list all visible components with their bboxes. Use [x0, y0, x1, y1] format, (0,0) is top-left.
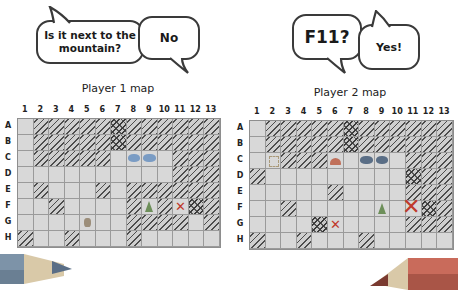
- grid-cell-G1[interactable]: [18, 215, 34, 231]
- grid-cell-B2[interactable]: [266, 137, 282, 153]
- grid-cell-H12[interactable]: [189, 231, 205, 247]
- grid-cell-C2[interactable]: [266, 153, 282, 169]
- grid-cell-E4[interactable]: [297, 185, 313, 201]
- grid-cell-A8[interactable]: [359, 121, 375, 137]
- grid-cell-C2[interactable]: [34, 151, 50, 167]
- grid-cell-H10[interactable]: [390, 233, 406, 249]
- grid-cell-C5[interactable]: [80, 151, 96, 167]
- grid-cell-C4[interactable]: [65, 151, 81, 167]
- grid-cell-D3[interactable]: [281, 169, 297, 185]
- grid-cell-B4[interactable]: [297, 137, 313, 153]
- grid-cell-F3[interactable]: [49, 199, 65, 215]
- grid-cell-G2[interactable]: [34, 215, 50, 231]
- grid-cell-E2[interactable]: [266, 185, 282, 201]
- grid-cell-A11[interactable]: [406, 121, 422, 137]
- grid-cell-G10[interactable]: [158, 215, 174, 231]
- grid-cell-A3[interactable]: [281, 121, 297, 137]
- grid-cell-F12[interactable]: [422, 201, 438, 217]
- grid-cell-A5[interactable]: [312, 121, 328, 137]
- grid-cell-H5[interactable]: [80, 231, 96, 247]
- grid-cell-F7[interactable]: [111, 199, 127, 215]
- grid-cell-F11[interactable]: ✕: [406, 201, 422, 217]
- grid-cell-H6[interactable]: [96, 231, 112, 247]
- grid-cell-C12[interactable]: [189, 151, 205, 167]
- grid-cell-B4[interactable]: [65, 135, 81, 151]
- grid-cell-A12[interactable]: [189, 119, 205, 135]
- grid-cell-D8[interactable]: [359, 169, 375, 185]
- grid-cell-H11[interactable]: [406, 233, 422, 249]
- grid-cell-C9[interactable]: [142, 151, 158, 167]
- grid-cell-C10[interactable]: [390, 153, 406, 169]
- grid-cell-G11[interactable]: [406, 217, 422, 233]
- grid-cell-D2[interactable]: [34, 167, 50, 183]
- grid-cell-B7[interactable]: [111, 135, 127, 151]
- grid-cell-G12[interactable]: [189, 215, 205, 231]
- grid-cell-B2[interactable]: [34, 135, 50, 151]
- grid-cell-B8[interactable]: [127, 135, 143, 151]
- grid-cell-E8[interactable]: [359, 185, 375, 201]
- grid-cell-C8[interactable]: [359, 153, 375, 169]
- grid-cell-D10[interactable]: [158, 167, 174, 183]
- grid-cell-D6[interactable]: [96, 167, 112, 183]
- grid-cell-D4[interactable]: [65, 167, 81, 183]
- grid-cell-A11[interactable]: [173, 119, 189, 135]
- grid-cell-F6[interactable]: [96, 199, 112, 215]
- grid-cell-G7[interactable]: [111, 215, 127, 231]
- grid-cell-H4[interactable]: [65, 231, 81, 247]
- grid-cell-B13[interactable]: [437, 137, 453, 153]
- grid-cell-G4[interactable]: [65, 215, 81, 231]
- grid-cell-G9[interactable]: [375, 217, 391, 233]
- grid-cell-A6[interactable]: [328, 121, 344, 137]
- grid-cell-A9[interactable]: [375, 121, 391, 137]
- grid-cell-G10[interactable]: [390, 217, 406, 233]
- grid-cell-G1[interactable]: [250, 217, 266, 233]
- grid-cell-H4[interactable]: [297, 233, 313, 249]
- grid-cell-H13[interactable]: [204, 231, 220, 247]
- grid-cell-H5[interactable]: [312, 233, 328, 249]
- grid-cell-E1[interactable]: [18, 183, 34, 199]
- grid-cell-F3[interactable]: [281, 201, 297, 217]
- grid-cell-F5[interactable]: [80, 199, 96, 215]
- grid-cell-F9[interactable]: [142, 199, 158, 215]
- grid-cell-E2[interactable]: [34, 183, 50, 199]
- grid-cell-H1[interactable]: [250, 233, 266, 249]
- grid-cell-C3[interactable]: [281, 153, 297, 169]
- grid-cell-H8[interactable]: [127, 231, 143, 247]
- grid-cell-C7[interactable]: [344, 153, 360, 169]
- grid-cell-G9[interactable]: [142, 215, 158, 231]
- grid-cell-F11[interactable]: ✕: [173, 199, 189, 215]
- grid-cell-B1[interactable]: [18, 135, 34, 151]
- grid-cell-C7[interactable]: [111, 151, 127, 167]
- grid-cell-H9[interactable]: [375, 233, 391, 249]
- grid-cell-A13[interactable]: [437, 121, 453, 137]
- grid-cell-F1[interactable]: [250, 201, 266, 217]
- grid-cell-A3[interactable]: [49, 119, 65, 135]
- grid-cell-G11[interactable]: [173, 215, 189, 231]
- grid-cell-E5[interactable]: [80, 183, 96, 199]
- grid-cell-C12[interactable]: [422, 153, 438, 169]
- grid-cell-A2[interactable]: [266, 121, 282, 137]
- grid-cell-A12[interactable]: [422, 121, 438, 137]
- grid-cell-G3[interactable]: [49, 215, 65, 231]
- grid-cell-C8[interactable]: [127, 151, 143, 167]
- grid-cell-D10[interactable]: [390, 169, 406, 185]
- grid-cell-H9[interactable]: [142, 231, 158, 247]
- grid-cell-F7[interactable]: [344, 201, 360, 217]
- grid-cell-H2[interactable]: [266, 233, 282, 249]
- grid-cell-G7[interactable]: [344, 217, 360, 233]
- grid-cell-E10[interactable]: [158, 183, 174, 199]
- grid-cell-A4[interactable]: [65, 119, 81, 135]
- grid-cell-H2[interactable]: [34, 231, 50, 247]
- grid-cell-D1[interactable]: [18, 167, 34, 183]
- grid-cell-F5[interactable]: [312, 201, 328, 217]
- grid-cell-F12[interactable]: [189, 199, 205, 215]
- grid-cell-D8[interactable]: [127, 167, 143, 183]
- grid-cell-G3[interactable]: [281, 217, 297, 233]
- grid-cell-C13[interactable]: [204, 151, 220, 167]
- grid-cell-A7[interactable]: [111, 119, 127, 135]
- grid-cell-E7[interactable]: [111, 183, 127, 199]
- grid-cell-G13[interactable]: [204, 215, 220, 231]
- grid-cell-B5[interactable]: [80, 135, 96, 151]
- grid-cell-D7[interactable]: [111, 167, 127, 183]
- grid-cell-F2[interactable]: [266, 201, 282, 217]
